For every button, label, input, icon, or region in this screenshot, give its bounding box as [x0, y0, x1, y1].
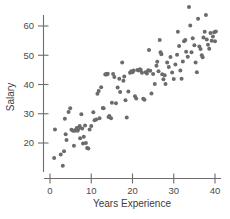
- data-point: [98, 116, 102, 120]
- x-axis-title: Years Experience: [93, 198, 171, 209]
- data-point: [155, 60, 159, 64]
- data-point: [148, 69, 152, 73]
- data-point: [164, 82, 168, 86]
- data-point: [52, 156, 56, 160]
- y-tick-label: 40: [23, 79, 34, 90]
- data-point: [82, 135, 86, 139]
- y-tick-label: 30: [23, 108, 34, 119]
- data-point: [158, 38, 162, 42]
- data-point: [205, 37, 209, 41]
- data-point: [63, 117, 67, 121]
- data-point: [110, 101, 114, 105]
- data-point: [84, 141, 88, 145]
- data-points-layer: [52, 5, 218, 168]
- data-point: [142, 98, 146, 102]
- data-point: [189, 50, 193, 54]
- data-point: [178, 68, 182, 72]
- data-point: [64, 132, 68, 136]
- data-point: [97, 89, 101, 93]
- data-point: [213, 39, 217, 43]
- y-tick-label: 60: [23, 20, 34, 31]
- data-point: [203, 30, 207, 34]
- data-point: [184, 50, 188, 54]
- data-point: [170, 71, 174, 75]
- data-point: [72, 144, 76, 148]
- data-point: [208, 31, 212, 35]
- x-tick-label: 10: [86, 185, 97, 196]
- data-point: [177, 44, 181, 48]
- data-point: [207, 47, 211, 51]
- data-point: [156, 69, 160, 73]
- x-axis-group: 010203040: [44, 174, 221, 196]
- data-point: [183, 38, 187, 42]
- data-point: [196, 17, 200, 21]
- data-point: [173, 63, 177, 67]
- data-point: [176, 30, 180, 34]
- data-point: [175, 53, 179, 57]
- data-point: [102, 106, 106, 110]
- data-point: [140, 71, 144, 75]
- data-point: [199, 47, 203, 51]
- data-point: [86, 147, 90, 151]
- data-point: [121, 79, 125, 83]
- data-point: [134, 97, 138, 101]
- data-point: [181, 59, 185, 63]
- x-tick-label: 30: [168, 185, 179, 196]
- data-point: [214, 30, 218, 34]
- data-point: [89, 124, 93, 128]
- data-point: [67, 110, 71, 114]
- data-point: [120, 61, 124, 65]
- data-point: [151, 72, 155, 76]
- data-point: [186, 55, 190, 59]
- data-point: [159, 52, 163, 56]
- data-point: [65, 138, 69, 142]
- data-point: [78, 136, 82, 140]
- data-point: [195, 70, 199, 74]
- data-point: [180, 77, 184, 81]
- x-tick-label: 40: [210, 185, 221, 196]
- data-point: [165, 61, 169, 65]
- data-point: [172, 77, 176, 81]
- y-tick-label: 50: [23, 50, 34, 61]
- scatter-plot-figure: 2030405060 010203040 Years Experience Sa…: [0, 0, 230, 219]
- data-point: [68, 106, 72, 110]
- data-point: [168, 55, 172, 59]
- y-tick-label: 20: [23, 137, 34, 148]
- data-point: [123, 98, 127, 102]
- data-point: [191, 36, 195, 40]
- data-point: [149, 92, 153, 96]
- data-point: [116, 85, 120, 89]
- data-point: [53, 128, 57, 132]
- data-point: [117, 77, 121, 81]
- data-point: [161, 77, 165, 81]
- data-point: [147, 48, 151, 52]
- data-point: [112, 75, 116, 79]
- data-point: [211, 35, 215, 39]
- data-point: [201, 55, 205, 59]
- data-point: [167, 65, 171, 69]
- data-point: [153, 82, 157, 86]
- x-tick-label: 20: [127, 185, 138, 196]
- y-axis-title: Salary: [5, 83, 16, 111]
- data-point: [192, 43, 196, 47]
- data-point: [201, 35, 205, 39]
- data-point: [132, 68, 136, 72]
- data-point: [122, 75, 126, 79]
- data-point: [118, 90, 122, 94]
- data-point: [206, 43, 210, 47]
- data-point: [114, 101, 118, 105]
- data-point: [188, 23, 192, 27]
- data-point: [83, 123, 87, 127]
- data-point: [109, 116, 113, 120]
- data-point: [88, 128, 92, 132]
- data-point: [194, 61, 198, 65]
- data-point: [163, 73, 167, 77]
- data-point: [154, 64, 158, 68]
- x-tick-labels: 010203040: [47, 185, 220, 196]
- data-point: [204, 13, 208, 17]
- data-point: [91, 110, 95, 114]
- data-point: [126, 90, 130, 94]
- plot-canvas: 2030405060 010203040 Years Experience Sa…: [0, 0, 230, 219]
- data-point: [125, 116, 129, 120]
- data-point: [106, 72, 110, 76]
